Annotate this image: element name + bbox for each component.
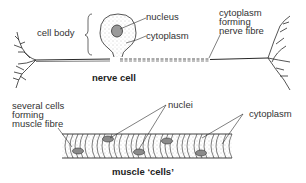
- left-dendrites: [13, 32, 36, 88]
- label-nucleus: nucleus: [146, 12, 179, 21]
- label-muscle-cytoplasm: cytoplasm: [249, 109, 292, 118]
- muscle-fibre-drawing: [58, 105, 243, 158]
- label-cell-body: cell body: [37, 28, 75, 37]
- caption-nerve-cell: nerve cell: [92, 72, 136, 83]
- right-terminal-branches: [268, 16, 290, 90]
- label-nuclei: nuclei: [168, 100, 193, 109]
- caption-muscle-cells: muscle ‘cells’: [112, 166, 174, 177]
- nucleus-shape: [112, 25, 123, 37]
- label-fibre-line3: nerve fibre: [219, 26, 264, 35]
- label-several-line3: muscle fibre: [12, 119, 63, 128]
- label-cytoplasm: cytoplasm: [146, 31, 189, 40]
